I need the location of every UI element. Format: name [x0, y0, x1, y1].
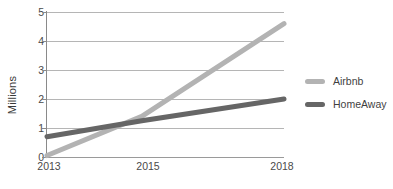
series-line-homeaway	[47, 99, 284, 137]
series-layer	[47, 12, 284, 157]
y-axis-title: Millions	[2, 52, 22, 138]
y-axis-title-label: Millions	[6, 76, 18, 114]
legend-swatch-airbnb	[305, 79, 325, 84]
legend: Airbnb HomeAway	[305, 70, 393, 116]
x-tick-label-2013: 2013	[37, 160, 60, 172]
x-tick-label-2015: 2015	[136, 160, 159, 172]
legend-item-airbnb[interactable]: Airbnb	[305, 70, 393, 92]
legend-label-homeaway: HomeAway	[333, 98, 387, 110]
x-axis-line	[46, 157, 284, 158]
line-chart: Millions 5 4 3 2 1 0 2013 2015 2018 Airb…	[0, 0, 393, 189]
x-tick-label-2018: 2018	[270, 160, 293, 172]
series-line-airbnb	[47, 24, 284, 156]
legend-label-airbnb: Airbnb	[333, 75, 363, 87]
legend-item-homeaway[interactable]: HomeAway	[305, 93, 393, 115]
legend-swatch-homeaway	[305, 102, 325, 107]
plot-area	[47, 12, 284, 157]
